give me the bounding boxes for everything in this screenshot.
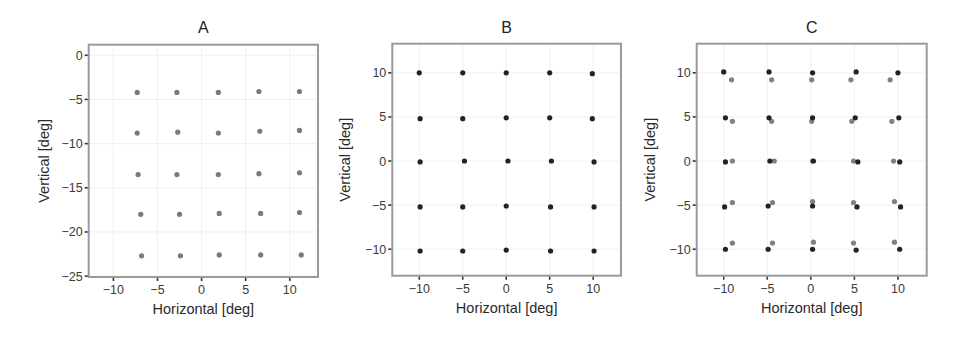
- data-point: [418, 159, 423, 164]
- data-point: [730, 200, 735, 205]
- y-tick-label: 10: [677, 66, 691, 80]
- y-tick-label: 0: [379, 155, 386, 169]
- y-axis-label: Vertical [deg]: [36, 119, 52, 203]
- data-point: [139, 253, 144, 258]
- data-point: [135, 130, 140, 135]
- data-point: [769, 77, 774, 82]
- data-point: [853, 115, 858, 120]
- data-point: [505, 158, 510, 163]
- y-axis-label: Vertical [deg]: [337, 118, 353, 202]
- y-tick-label: 10: [372, 66, 386, 80]
- y-tick-label: −10: [365, 243, 386, 257]
- x-tick-label: 5: [242, 283, 249, 297]
- panel-title: B: [501, 19, 512, 36]
- y-tick-label: −20: [61, 225, 82, 239]
- data-point: [460, 70, 465, 75]
- x-tick-label: 10: [891, 282, 905, 296]
- data-point: [811, 158, 816, 163]
- plot-area: [89, 45, 318, 277]
- data-point: [770, 240, 775, 245]
- data-point: [297, 128, 302, 133]
- panel-c: −10−505101050−5−10CHorizontal [deg]Verti…: [642, 19, 927, 316]
- data-point: [258, 252, 263, 257]
- data-point: [297, 89, 302, 94]
- data-point: [591, 204, 596, 209]
- data-point: [590, 71, 595, 76]
- data-point: [723, 115, 728, 120]
- x-tick-label: 0: [198, 283, 205, 297]
- data-point: [547, 70, 552, 75]
- data-point: [722, 204, 727, 209]
- y-tick-label: 5: [684, 110, 691, 124]
- data-point: [896, 115, 901, 120]
- y-tick-label: −5: [372, 199, 386, 213]
- data-point: [854, 248, 859, 253]
- data-point: [811, 240, 816, 245]
- data-point: [891, 158, 896, 163]
- data-point: [418, 248, 423, 253]
- x-tick-label: −10: [103, 283, 124, 297]
- data-point: [174, 90, 179, 95]
- data-point: [854, 204, 859, 209]
- data-point: [417, 70, 422, 75]
- data-point: [549, 158, 554, 163]
- data-point: [504, 115, 509, 120]
- data-point: [767, 158, 772, 163]
- data-point: [217, 211, 222, 216]
- x-tick-label: 5: [546, 282, 553, 296]
- x-tick-label: −10: [713, 282, 734, 296]
- x-tick-label: −5: [456, 282, 470, 296]
- data-point: [730, 240, 735, 245]
- panel-a: −10−505100−5−10−15−20−25AHorizontal [deg…: [36, 19, 318, 317]
- data-point: [548, 248, 553, 253]
- data-point: [216, 172, 221, 177]
- data-point: [547, 115, 552, 120]
- y-tick-label: 0: [684, 155, 691, 169]
- data-point: [548, 204, 553, 209]
- data-point: [889, 119, 894, 124]
- data-point: [256, 171, 261, 176]
- x-tick-label: −5: [150, 283, 164, 297]
- data-point: [766, 69, 771, 74]
- data-point: [138, 212, 143, 217]
- data-point: [851, 240, 856, 245]
- data-point: [898, 204, 903, 209]
- x-axis-label: Horizontal [deg]: [456, 300, 558, 316]
- y-tick-label: −25: [61, 270, 82, 284]
- data-point: [257, 129, 262, 134]
- data-point: [766, 115, 771, 120]
- data-point: [217, 252, 222, 257]
- data-point: [460, 248, 465, 253]
- data-point: [460, 116, 465, 121]
- data-point: [504, 248, 509, 253]
- y-axis-label: Vertical [deg]: [642, 118, 658, 202]
- data-point: [462, 158, 467, 163]
- data-point: [895, 70, 900, 75]
- data-point: [297, 210, 302, 215]
- data-point: [135, 90, 140, 95]
- data-point: [809, 77, 814, 82]
- data-point: [256, 89, 261, 94]
- data-point: [766, 203, 771, 208]
- x-tick-label: 10: [586, 282, 600, 296]
- data-point: [299, 252, 304, 257]
- data-point: [590, 116, 595, 121]
- y-tick-label: −15: [61, 181, 82, 195]
- data-point: [810, 115, 815, 120]
- y-tick-label: −10: [669, 243, 690, 257]
- x-tick-label: −5: [760, 282, 774, 296]
- data-point: [591, 159, 596, 164]
- data-point: [504, 203, 509, 208]
- data-point: [258, 211, 263, 216]
- x-tick-label: 5: [851, 282, 858, 296]
- y-tick-label: −5: [676, 199, 690, 213]
- data-point: [766, 247, 771, 252]
- data-point: [770, 200, 775, 205]
- data-point: [178, 253, 183, 258]
- panel-title: C: [806, 19, 818, 36]
- data-point: [216, 130, 221, 135]
- data-point: [177, 212, 182, 217]
- y-tick-label: 5: [379, 110, 386, 124]
- data-point: [848, 77, 853, 82]
- y-tick-label: −10: [61, 137, 82, 151]
